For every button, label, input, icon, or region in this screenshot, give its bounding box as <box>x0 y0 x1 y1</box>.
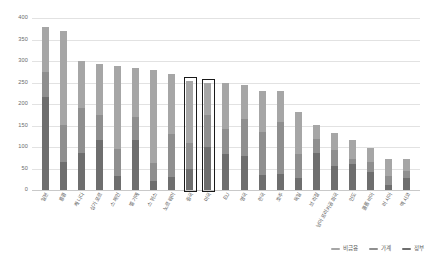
bar-slot <box>126 18 144 190</box>
bar-slot <box>108 18 126 190</box>
bar-segment-household <box>367 162 374 173</box>
bar-stack[interactable] <box>132 68 139 190</box>
x-axis-label-slot: 영국 <box>235 190 253 238</box>
legend-label: 정부 <box>414 246 424 252</box>
x-axis-label-slot: 호주 <box>271 190 289 238</box>
x-axis-label: 한국 <box>257 192 266 203</box>
stacked-bar-chart: 400350300250200150100500 일본홍콩캐나다싱가포르스페인벨… <box>0 0 432 258</box>
y-axis-tick-label: 0 <box>2 187 28 193</box>
y-axis-tick-label: 250 <box>2 80 28 86</box>
bar-segment-government <box>367 172 374 190</box>
bar-slot <box>344 18 362 190</box>
chart-legend: 비금융가계정부 <box>0 246 424 252</box>
bar-segment-household <box>295 154 302 178</box>
bar-stack[interactable] <box>186 81 193 190</box>
bar-stack[interactable] <box>295 112 302 190</box>
x-axis-label: 홍콩 <box>58 192 67 203</box>
bar-segment-government <box>277 174 284 190</box>
bar-slot <box>163 18 181 190</box>
bar-stack[interactable] <box>60 31 67 190</box>
x-axis-label: 노르웨이 <box>162 192 176 212</box>
bar-stack[interactable] <box>114 66 121 190</box>
bar-stack[interactable] <box>403 159 410 190</box>
bar-stack[interactable] <box>385 159 392 190</box>
x-axis-label-slot: 캐나다 <box>72 190 90 238</box>
bar-segment-nonfinancial <box>78 61 85 108</box>
x-axis-label-slot: 미국 <box>199 190 217 238</box>
bar-slot <box>217 18 235 190</box>
bar-slot <box>36 18 54 190</box>
bar-segment-household <box>385 176 392 185</box>
bar-slot <box>253 18 271 190</box>
bar-stack[interactable] <box>42 27 49 190</box>
bar-segment-government <box>349 164 356 190</box>
bar-segment-government <box>259 175 266 190</box>
bar-segment-government <box>78 153 85 190</box>
legend-item[interactable]: 정부 <box>402 246 424 252</box>
bar-segment-government <box>295 178 302 190</box>
bar-stack[interactable] <box>349 140 356 190</box>
legend-label: 비금융 <box>343 246 358 252</box>
x-axis-label-slot: 한국 <box>253 190 271 238</box>
bar-slot <box>90 18 108 190</box>
bar-segment-household <box>150 163 157 180</box>
x-axis-label-slot: EU <box>217 190 235 238</box>
bar-segment-government <box>222 154 229 190</box>
bar-segment-government <box>96 140 103 190</box>
bar-segment-government <box>204 147 211 190</box>
bar-stack[interactable] <box>277 91 284 190</box>
x-axis-label: 중국 <box>185 192 194 203</box>
bar-segment-nonfinancial <box>295 112 302 154</box>
bar-slot <box>380 18 398 190</box>
y-axis-tick-label: 200 <box>2 101 28 107</box>
bar-stack[interactable] <box>241 85 248 190</box>
bar-segment-government <box>168 177 175 190</box>
bar-stack[interactable] <box>331 133 338 190</box>
bar-slot <box>362 18 380 190</box>
bar-segment-government <box>313 153 320 190</box>
bar-segment-nonfinancial <box>60 31 67 125</box>
bar-stack[interactable] <box>313 125 320 190</box>
bar-stack[interactable] <box>96 64 103 190</box>
bar-segment-household <box>42 72 49 97</box>
bar-segment-government <box>403 178 410 190</box>
bar-stack[interactable] <box>222 83 229 190</box>
bar-segment-household <box>96 115 103 140</box>
bar-slot <box>199 18 217 190</box>
y-axis-tick-label: 100 <box>2 144 28 150</box>
bar-slot <box>54 18 72 190</box>
bar-segment-nonfinancial <box>241 85 248 119</box>
bar-stack[interactable] <box>168 74 175 190</box>
bar-segment-household <box>259 132 266 174</box>
x-axis-label: 스페인 <box>110 192 122 207</box>
x-axis-label-slot: 멕시코 <box>398 190 416 238</box>
bar-segment-nonfinancial <box>186 81 193 143</box>
bar-segment-government <box>150 181 157 190</box>
bar-stack[interactable] <box>367 148 374 190</box>
bar-segment-government <box>114 176 121 190</box>
bars-group <box>32 18 420 190</box>
bar-stack[interactable] <box>204 83 211 190</box>
bar-segment-household <box>277 122 284 174</box>
bar-stack[interactable] <box>78 61 85 190</box>
bar-slot <box>181 18 199 190</box>
bar-segment-household <box>313 139 320 154</box>
x-axis-label: 인도 <box>348 192 357 203</box>
x-axis-label-slot: 독일 <box>289 190 307 238</box>
bar-segment-household <box>241 119 248 156</box>
bar-stack[interactable] <box>150 70 157 190</box>
x-axis-label-slot: 스페인 <box>108 190 126 238</box>
x-axis-labels: 일본홍콩캐나다싱가포르스페인벨기에스위스노르웨이중국미국EU영국한국호주독일브라… <box>32 190 420 238</box>
x-axis-label: 브라질 <box>309 192 321 207</box>
bar-segment-household <box>168 134 175 177</box>
bar-segment-nonfinancial <box>313 125 320 139</box>
bar-slot <box>398 18 416 190</box>
bar-segment-nonfinancial <box>367 148 374 162</box>
legend-item[interactable]: 비금융 <box>331 246 358 252</box>
bar-segment-nonfinancial <box>150 70 157 163</box>
x-axis-label-slot: 인도 <box>344 190 362 238</box>
bar-segment-household <box>222 129 229 154</box>
legend-item[interactable]: 가계 <box>369 246 391 252</box>
bar-segment-nonfinancial <box>96 64 103 115</box>
bar-stack[interactable] <box>259 91 266 190</box>
